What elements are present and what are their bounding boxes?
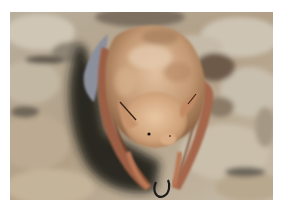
bat-nostril <box>169 135 171 137</box>
photo <box>10 12 273 200</box>
bat-eye <box>147 132 150 135</box>
bat-photo <box>10 12 273 200</box>
bat-muzzle <box>160 133 176 145</box>
